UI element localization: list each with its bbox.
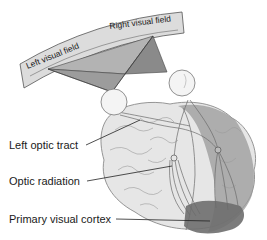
right-eye (169, 70, 195, 96)
callout-primary-visual-cortex: Primary visual cortex (9, 214, 111, 225)
right-lgn-node (215, 147, 221, 153)
diagram-illustration (0, 0, 267, 240)
brain (101, 100, 256, 233)
left-lgn-node (171, 155, 177, 161)
callout-left-optic-tract: Left optic tract (9, 140, 78, 151)
visual-pathway-diagram: Left visual field Right visual field Lef… (0, 0, 267, 240)
left-eye (101, 89, 127, 115)
callout-optic-radiation: Optic radiation (9, 176, 80, 187)
